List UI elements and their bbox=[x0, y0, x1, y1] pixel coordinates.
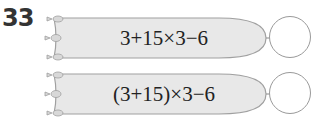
problem-number: 33 bbox=[2, 4, 33, 32]
answer-circle[interactable] bbox=[269, 16, 311, 58]
expression-row-1: 3+15×3−6 bbox=[44, 14, 319, 62]
expression-text: 3+15×3−6 bbox=[64, 14, 264, 62]
expression-row-2: (3+15)×3−6 bbox=[44, 70, 319, 118]
answer-circle[interactable] bbox=[269, 72, 311, 114]
expression-text: (3+15)×3−6 bbox=[64, 70, 264, 118]
